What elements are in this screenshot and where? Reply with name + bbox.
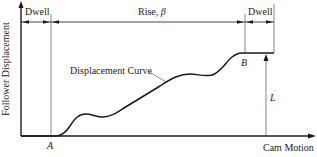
x-axis-arrow-icon — [308, 134, 316, 139]
curve-label: Displacement Curve — [70, 66, 152, 76]
y-axis — [19, 1, 24, 136]
dimension-line — [21, 20, 274, 24]
cam-displacement-diagram: Dwell Rise, β Dwell Displacement Curve A… — [0, 0, 317, 157]
lift-arrow-icon — [264, 54, 269, 61]
diagram-canvas — [0, 0, 317, 157]
point-b-label: B — [241, 58, 247, 68]
rise-label: Rise, β — [138, 7, 166, 17]
dwell-label-start: Dwell — [25, 7, 49, 17]
x-axis — [21, 134, 316, 139]
dwell-label-end: Dwell — [248, 7, 272, 17]
lift-label: L — [270, 93, 276, 103]
lift-arrow — [264, 54, 269, 136]
x-axis-label: Cam Motion — [263, 143, 314, 153]
point-a-label: A — [47, 141, 53, 151]
y-axis-label: Follower Displacement — [1, 19, 11, 119]
y-axis-arrow-icon — [19, 1, 24, 8]
beta-symbol: β — [161, 6, 166, 17]
